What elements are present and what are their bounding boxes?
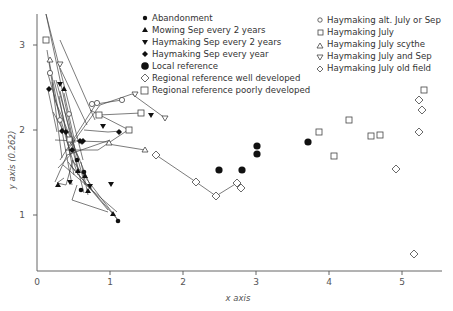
marker-local-reference [304,138,311,145]
y-axis-label: y axis (0.262) [7,131,17,190]
legend-haymaking-sep-2y: Haymaking Sep every 2 years [152,37,282,47]
legend: Abandonment Mowing Sep every 2 years Hay… [141,13,441,95]
legend-local-reference: Local reference [152,61,218,71]
y-tick-2: 2 [19,125,25,135]
x-axis-label: x axis [225,293,251,303]
legend-haymaking-sep-every-year: Haymaking Sep every year [152,49,269,59]
legend-haymaking-july-old-field: Haymaking July old field [327,63,431,73]
legend-haymaking-alt: Haymaking alt. July or Sep [327,15,441,25]
legend-haymaking-july-scythe: Haymaking July scythe [327,39,425,49]
x-tick-4: 4 [326,277,332,287]
x-tick-labels: 0 1 2 3 4 5 [34,277,405,287]
marker-local-reference [253,142,260,149]
x-tick-1: 1 [107,277,113,287]
marker-local-reference [238,166,245,173]
marker-local-reference [215,166,222,173]
y-tick-1: 1 [19,210,25,220]
x-tick-3: 3 [253,277,259,287]
scatter-chart: 3 2 1 0 1 2 3 4 5 x axis y axis (0.262) [0,0,453,311]
legend-abandonment: Abandonment [152,13,213,23]
legend-regional-well-developed: Regional reference well developed [152,73,300,83]
y-tick-3: 3 [19,40,25,50]
legend-regional-poorly-developed: Regional reference poorly developed [152,85,310,95]
legend-mowing-sep-2y: Mowing Sep every 2 years [152,25,266,35]
marker-regional-poor [421,87,427,93]
x-tick-2: 2 [180,277,186,287]
x-tick-5: 5 [399,277,405,287]
legend-haymaking-july-and-sep: Haymaking July and Sep [327,51,432,61]
marker-local-reference [253,150,260,157]
y-tick-labels: 3 2 1 [19,40,25,220]
x-tick-0: 0 [34,277,40,287]
legend-haymaking-july: Haymaking July [327,27,394,37]
